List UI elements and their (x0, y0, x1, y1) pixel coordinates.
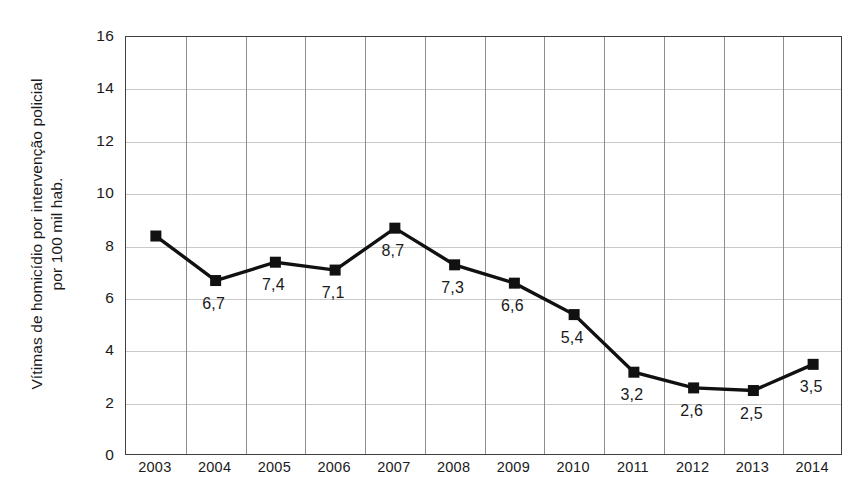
series-marker (509, 278, 520, 289)
x-axis-tick-label: 2006 (318, 459, 351, 475)
y-axis-tick-label: 4 (78, 341, 114, 359)
y-axis-tick-label: 0 (78, 446, 114, 464)
series-line-chart (126, 37, 843, 456)
y-axis-tick-label: 14 (78, 79, 114, 97)
data-point-label: 7,4 (262, 276, 285, 294)
series-marker (628, 367, 639, 378)
data-point-label: 2,5 (740, 405, 763, 423)
y-axis-tick-labels: 0246810121416 (78, 0, 114, 502)
x-axis-tick-label: 2009 (497, 459, 530, 475)
y-axis-title-line-1: Vítimas de homicídio por intervenção pol… (27, 78, 47, 389)
x-axis-tick-label: 2013 (736, 459, 769, 475)
y-axis-tick-label: 10 (78, 184, 114, 202)
data-point-label: 7,3 (441, 279, 464, 297)
x-axis-tick-label: 2003 (138, 459, 171, 475)
series-marker (330, 265, 341, 276)
x-axis-tick-label: 2014 (796, 459, 829, 475)
series-marker (569, 309, 580, 320)
y-axis-tick-label: 2 (78, 394, 114, 412)
y-axis-title-line-2: por 100 mil hab. (47, 178, 67, 291)
chart-page: Vítimas de homicídio por intervenção pol… (0, 0, 861, 502)
y-axis-title: Vítimas de homicídio por intervenção pol… (25, 4, 69, 464)
data-point-label: 2,6 (680, 402, 703, 420)
data-point-label: 6,6 (501, 297, 524, 315)
x-axis-tick-label: 2005 (258, 459, 291, 475)
series-marker (748, 385, 759, 396)
series-marker (808, 359, 819, 370)
series-marker (150, 231, 161, 242)
x-axis-tick-labels: 2003200420052006200720082009201020112012… (125, 459, 842, 485)
y-axis-tick-label: 16 (78, 27, 114, 45)
series-markers (150, 223, 818, 396)
data-point-label: 8,7 (381, 242, 404, 260)
y-axis-tick-label: 6 (78, 289, 114, 307)
data-point-label: 7,1 (322, 284, 345, 302)
x-axis-tick-label: 2010 (557, 459, 590, 475)
series-marker (270, 257, 281, 268)
data-point-label: 5,4 (561, 329, 584, 347)
series-marker (688, 382, 699, 393)
series-marker (389, 223, 400, 234)
x-axis-tick-label: 2011 (617, 459, 649, 475)
x-axis-tick-label: 2012 (676, 459, 709, 475)
plot-area: 6,77,47,18,77,36,65,43,22,62,53,5 (125, 36, 842, 455)
series-marker (449, 259, 460, 270)
x-axis-tick-label: 2004 (198, 459, 231, 475)
y-axis-tick-label: 12 (78, 132, 114, 150)
y-axis-tick-label: 8 (78, 237, 114, 255)
x-axis-tick-label: 2008 (437, 459, 470, 475)
x-axis-tick-label: 2007 (377, 459, 410, 475)
data-point-label: 6,7 (202, 295, 225, 313)
series-polyline (156, 228, 813, 390)
series-marker (210, 275, 221, 286)
data-point-label: 3,2 (620, 386, 643, 404)
data-point-label: 3,5 (800, 378, 823, 396)
